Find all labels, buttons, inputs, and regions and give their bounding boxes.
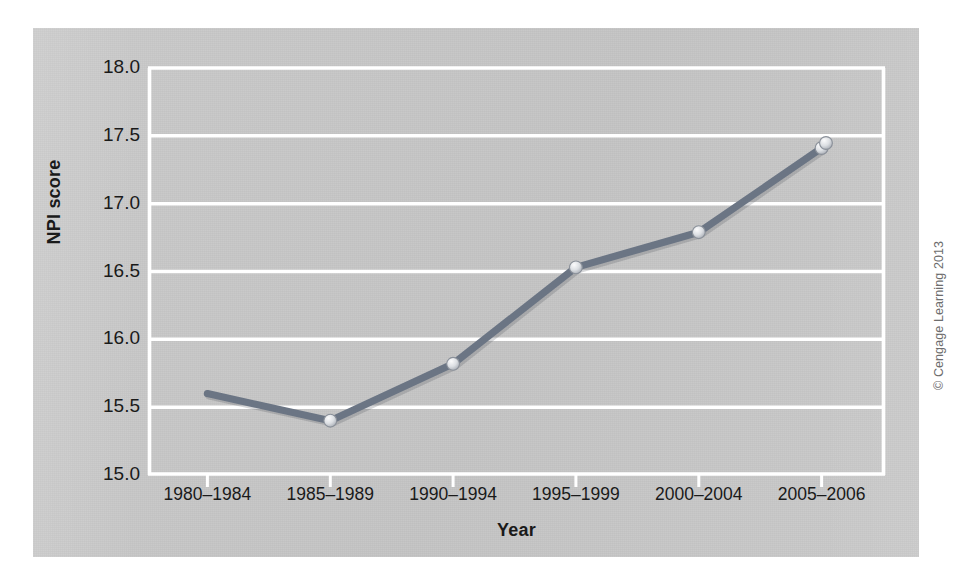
y-axis-tick-labels: 18.0 17.5 17.0 16.5 16.0 15.5 15.0 [80,0,140,583]
figure-container: 18.0 17.5 17.0 16.5 16.0 15.5 15.0 NPI s… [0,0,970,583]
series-line-npi-score [207,148,821,421]
data-point-1995-1999[interactable] [692,226,705,239]
data-point-1990-1994[interactable] [570,261,583,274]
data-point-2005-2006[interactable] [820,137,833,150]
x-axis-title: Year [148,520,885,541]
gridlines [148,68,885,407]
data-point-markers [324,137,832,428]
x-tick-label-3: 1995–1999 [532,484,620,505]
y-tick-label-18-0: 18.0 [80,56,140,78]
y-tick-label-16-5: 16.5 [80,260,140,282]
x-tick-label-1: 1985–1989 [286,484,374,505]
y-tick-label-15-0: 15.0 [80,463,140,485]
x-tick-label-4: 2000–2004 [655,484,743,505]
series-line-shadow [209,150,823,423]
y-tick-label-15-5: 15.5 [80,395,140,417]
y-tick-label-16-0: 16.0 [80,327,140,349]
copyright-notice: © Cengage Learning 2013 [932,241,946,390]
data-point-1980-1984[interactable] [324,414,337,427]
x-tick-label-2: 1990–1994 [409,484,497,505]
y-axis-title: NPI score [44,132,65,272]
y-tick-label-17-0: 17.0 [80,192,140,214]
x-axis-tick-labels: 1980–1984 1985–1989 1990–1994 1995–1999 … [148,484,885,512]
y-tick-label-17-5: 17.5 [80,124,140,146]
x-tick-label-5: 2005–2006 [778,484,866,505]
data-point-1985-1989[interactable] [447,357,460,370]
x-tick-label-0: 1980–1984 [164,484,252,505]
